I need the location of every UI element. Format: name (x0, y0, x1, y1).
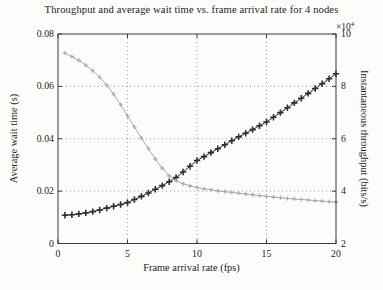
x-tick-label: 10 (182, 249, 212, 259)
series-markers-average-wait-time (62, 71, 339, 219)
series-line-average-wait-time (65, 74, 336, 215)
x-tick-label: 20 (321, 249, 351, 259)
series-line-instantaneous-throughput (65, 53, 336, 202)
y-tick-label-right: 2 (341, 239, 363, 249)
y-tick-label-left: 0.06 (20, 81, 54, 91)
plot-area (0, 0, 383, 290)
left-y-axis-label: Average wait time (s) (8, 39, 19, 239)
right-y-axis-label: Instantaneous throughput (bits/s) (359, 39, 370, 239)
x-tick-label: 0 (43, 249, 73, 259)
x-tick-label: 15 (252, 249, 282, 259)
y-tick-label-left: 0.04 (20, 134, 54, 144)
y-tick-label-right: 10 (341, 29, 363, 39)
x-axis-label: Frame arrival rate (fps) (0, 262, 383, 273)
x-tick-label: 5 (113, 249, 143, 259)
y-tick-label-left: 0 (20, 239, 54, 249)
y-tick-label-left: 0.08 (20, 29, 54, 39)
figure: Throughput and average wait time vs. fra… (0, 0, 383, 290)
series-markers-instantaneous-throughput (63, 51, 338, 204)
y-tick-label-left: 0.02 (20, 186, 54, 196)
